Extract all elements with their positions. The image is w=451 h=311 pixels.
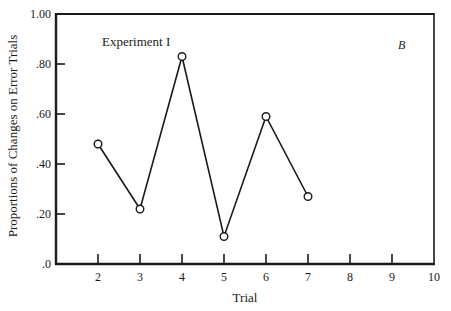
x-tick-label: 7	[305, 270, 311, 284]
panel-label: B	[398, 38, 406, 52]
y-tick-label: 1.00	[30, 7, 51, 21]
x-tick-label: 2	[95, 270, 101, 284]
data-point-marker	[220, 233, 228, 241]
data-point-marker	[94, 140, 102, 148]
x-tick-label: 4	[179, 270, 185, 284]
y-tick-label: .40	[36, 157, 51, 171]
y-tick-label: .60	[36, 107, 51, 121]
series-line	[98, 57, 308, 237]
data-series	[94, 53, 312, 241]
x-tick-label: 6	[263, 270, 269, 284]
data-point-marker	[136, 205, 144, 213]
experiment-annotation: Experiment I	[102, 34, 170, 49]
data-point-marker	[178, 53, 186, 61]
data-point-marker	[262, 113, 270, 121]
x-tick-label: 9	[389, 270, 395, 284]
x-axis-title: Trial	[233, 290, 258, 305]
x-tick-label: 10	[428, 270, 440, 284]
x-axis-ticks: 2345678910	[95, 254, 440, 284]
x-tick-label: 8	[347, 270, 353, 284]
y-axis-ticks: .0.20.40.60.801.00	[30, 7, 65, 271]
plot-frame	[55, 13, 435, 265]
y-tick-label: .80	[36, 57, 51, 71]
x-tick-label: 5	[221, 270, 227, 284]
x-tick-label: 3	[137, 270, 143, 284]
y-tick-label: .20	[36, 207, 51, 221]
y-axis-title: Proportions of Changes on Error Trials	[5, 35, 20, 238]
line-chart: .0.20.40.60.801.00 2345678910 Experiment…	[0, 0, 451, 311]
data-point-marker	[304, 193, 312, 201]
y-tick-label: .0	[42, 257, 51, 271]
